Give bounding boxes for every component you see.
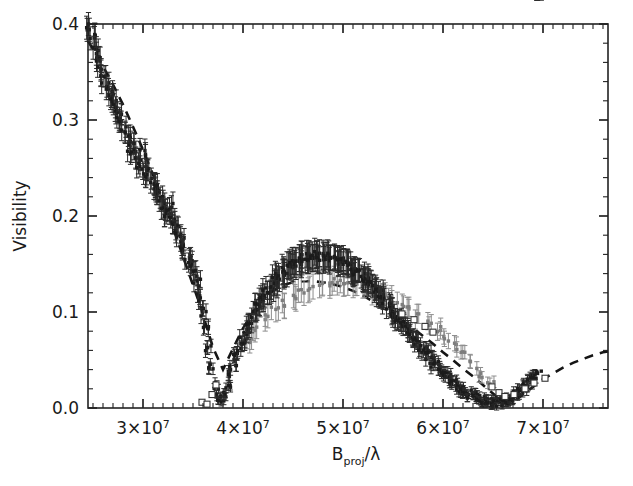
data-point bbox=[154, 184, 157, 187]
data-point bbox=[492, 380, 495, 383]
data-point bbox=[333, 255, 336, 258]
open-square-point bbox=[399, 311, 405, 317]
data-point bbox=[405, 305, 408, 308]
data-point bbox=[540, 369, 543, 372]
data-point bbox=[349, 268, 352, 271]
x-tick-label: 5×107 bbox=[316, 418, 370, 438]
visibility-plot-figure: 3×1074×1075×1076×1077×107 0.00.10.20.30.… bbox=[0, 0, 633, 486]
data-point bbox=[189, 264, 192, 267]
data-point bbox=[408, 333, 411, 336]
data-point bbox=[311, 285, 314, 288]
y-tick-label: 0.1 bbox=[52, 302, 79, 322]
data-point bbox=[130, 150, 133, 153]
data-point bbox=[261, 288, 264, 291]
data-point bbox=[163, 215, 166, 218]
data-point bbox=[469, 360, 472, 363]
data-point bbox=[447, 339, 450, 342]
data-point bbox=[270, 306, 273, 309]
data-point bbox=[169, 216, 172, 219]
data-point bbox=[417, 312, 420, 315]
data-point bbox=[166, 209, 169, 212]
open-square-point bbox=[502, 393, 508, 399]
data-point bbox=[439, 325, 442, 328]
data-point bbox=[534, 377, 537, 380]
data-point bbox=[381, 302, 384, 305]
open-square-point bbox=[542, 375, 548, 381]
data-point bbox=[282, 268, 285, 271]
y-tick-label: 0.0 bbox=[52, 398, 79, 418]
data-point bbox=[283, 304, 286, 307]
data-point bbox=[209, 344, 212, 347]
open-square-point bbox=[496, 390, 502, 396]
data-point bbox=[211, 367, 214, 370]
data-point bbox=[124, 131, 127, 134]
x-axis-title-subscript: proj bbox=[343, 455, 364, 468]
data-point bbox=[300, 288, 303, 291]
data-point bbox=[292, 294, 295, 297]
data-point bbox=[126, 149, 129, 152]
data-point bbox=[281, 299, 284, 302]
data-point bbox=[443, 337, 446, 340]
data-point bbox=[199, 314, 202, 317]
data-point bbox=[336, 281, 339, 284]
data-point bbox=[228, 384, 231, 387]
data-point bbox=[307, 258, 310, 261]
data-point bbox=[247, 322, 250, 325]
data-point bbox=[385, 307, 388, 310]
data-point bbox=[149, 181, 152, 184]
y-tick-label: 0.3 bbox=[52, 110, 79, 130]
open-square-point bbox=[204, 401, 210, 407]
data-point bbox=[160, 207, 163, 210]
data-point bbox=[366, 280, 369, 283]
data-point bbox=[443, 371, 446, 374]
data-point bbox=[437, 368, 440, 371]
open-square-point bbox=[511, 392, 517, 398]
data-point bbox=[88, 37, 91, 40]
data-point bbox=[326, 252, 329, 255]
data-point bbox=[135, 166, 138, 169]
data-point bbox=[228, 364, 231, 367]
x-tick-label: 7×107 bbox=[516, 418, 570, 438]
data-point bbox=[238, 336, 241, 339]
data-point bbox=[253, 302, 256, 305]
data-point bbox=[526, 377, 529, 380]
data-point bbox=[536, 372, 539, 375]
data-point bbox=[437, 360, 440, 363]
data-point bbox=[144, 154, 147, 157]
data-point bbox=[399, 321, 402, 324]
data-point bbox=[531, 376, 534, 379]
data-point bbox=[455, 348, 458, 351]
data-point bbox=[401, 303, 404, 306]
open-square-point bbox=[522, 386, 528, 392]
data-point bbox=[192, 281, 195, 284]
data-point bbox=[302, 291, 305, 294]
data-point bbox=[477, 375, 480, 378]
open-square-point bbox=[531, 380, 537, 386]
data-point bbox=[206, 327, 209, 330]
y-tick-label: 0.4 bbox=[52, 14, 79, 34]
data-point bbox=[339, 279, 342, 282]
data-point bbox=[357, 269, 360, 272]
data-point bbox=[143, 149, 146, 152]
data-point bbox=[463, 351, 466, 354]
data-point bbox=[342, 282, 345, 285]
open-square-point bbox=[411, 317, 417, 323]
data-point bbox=[294, 297, 297, 300]
x-tick-label: 6×107 bbox=[416, 418, 470, 438]
data-point bbox=[308, 287, 311, 290]
data-point bbox=[318, 284, 321, 287]
x-axis-title-tail: /λ bbox=[364, 444, 380, 464]
data-point bbox=[120, 128, 123, 131]
data-point bbox=[426, 319, 429, 322]
y-tick-label: 0.2 bbox=[52, 206, 79, 226]
data-point bbox=[202, 326, 205, 329]
data-point bbox=[440, 371, 443, 374]
data-point bbox=[174, 232, 177, 235]
data-point bbox=[217, 399, 220, 402]
data-point bbox=[138, 148, 141, 151]
data-point bbox=[204, 310, 207, 313]
plot-canvas: 3×1074×1075×1076×1077×107 0.00.10.20.30.… bbox=[0, 0, 633, 486]
open-square-point bbox=[422, 323, 428, 329]
y-axis-title-text: Visibility bbox=[10, 180, 30, 251]
x-axis-title-base: B bbox=[332, 444, 344, 464]
